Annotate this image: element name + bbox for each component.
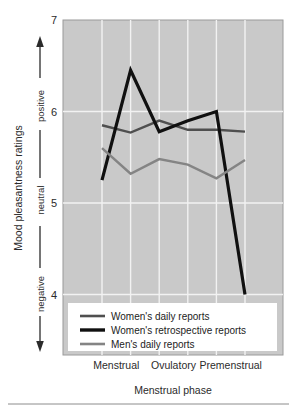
x-axis-title: Menstrual phase [134,384,212,396]
scale-label-negative: negative [35,276,46,312]
x-category-label-0: Menstrual [93,359,139,371]
figure-container: 4567 Women's daily reportsWomen's retros… [0,0,297,412]
mood-pleasantness-line-chart: 4567 Women's daily reportsWomen's retros… [0,0,297,412]
scale-label-positive: positive [35,90,46,122]
x-axis-category-labels: MenstrualOvulatoryPremenstrual [93,359,262,371]
y-tick-label-5: 5 [51,197,57,209]
y-tick-label-7: 7 [51,14,57,26]
x-category-label-1: Ovulatory [151,359,197,371]
legend-label-0: Women's daily reports [111,311,209,322]
scale-label-neutral: neutral [35,185,46,214]
legend-label-1: Women's retrospective reports [111,325,246,336]
x-category-label-2: Premenstrual [199,359,261,371]
y-axis-title: Mood pleasantness ratings [12,125,24,251]
legend-label-2: Men's daily reports [111,339,195,350]
y-tick-label-4: 4 [51,289,57,301]
chart-legend: Women's daily reportsWomen's retrospecti… [68,303,277,351]
y-tick-label-6: 6 [51,106,57,118]
